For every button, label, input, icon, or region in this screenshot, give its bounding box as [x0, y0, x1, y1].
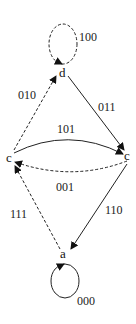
label-111: 111: [10, 207, 27, 221]
node-d: d: [59, 65, 66, 80]
label-101: 101: [57, 122, 75, 136]
label-100: 100: [79, 30, 97, 44]
label-001: 001: [56, 180, 74, 194]
node-c-right: c: [124, 148, 130, 163]
label-010: 010: [18, 88, 36, 102]
edge-d-to-cright: [68, 76, 124, 150]
label-000: 000: [77, 294, 95, 308]
edge-a-self-loop: [51, 264, 79, 298]
edge-cleft-to-cright: [14, 140, 123, 154]
node-c-left: c: [6, 150, 12, 165]
edge-d-self-loop: [49, 24, 77, 64]
label-011: 011: [98, 100, 116, 114]
state-diagram: d c c a 100 010 011 101 001 111 110 000: [0, 0, 136, 324]
edge-cright-to-cleft: [15, 161, 127, 172]
node-a: a: [60, 246, 66, 261]
label-110: 110: [105, 203, 123, 217]
